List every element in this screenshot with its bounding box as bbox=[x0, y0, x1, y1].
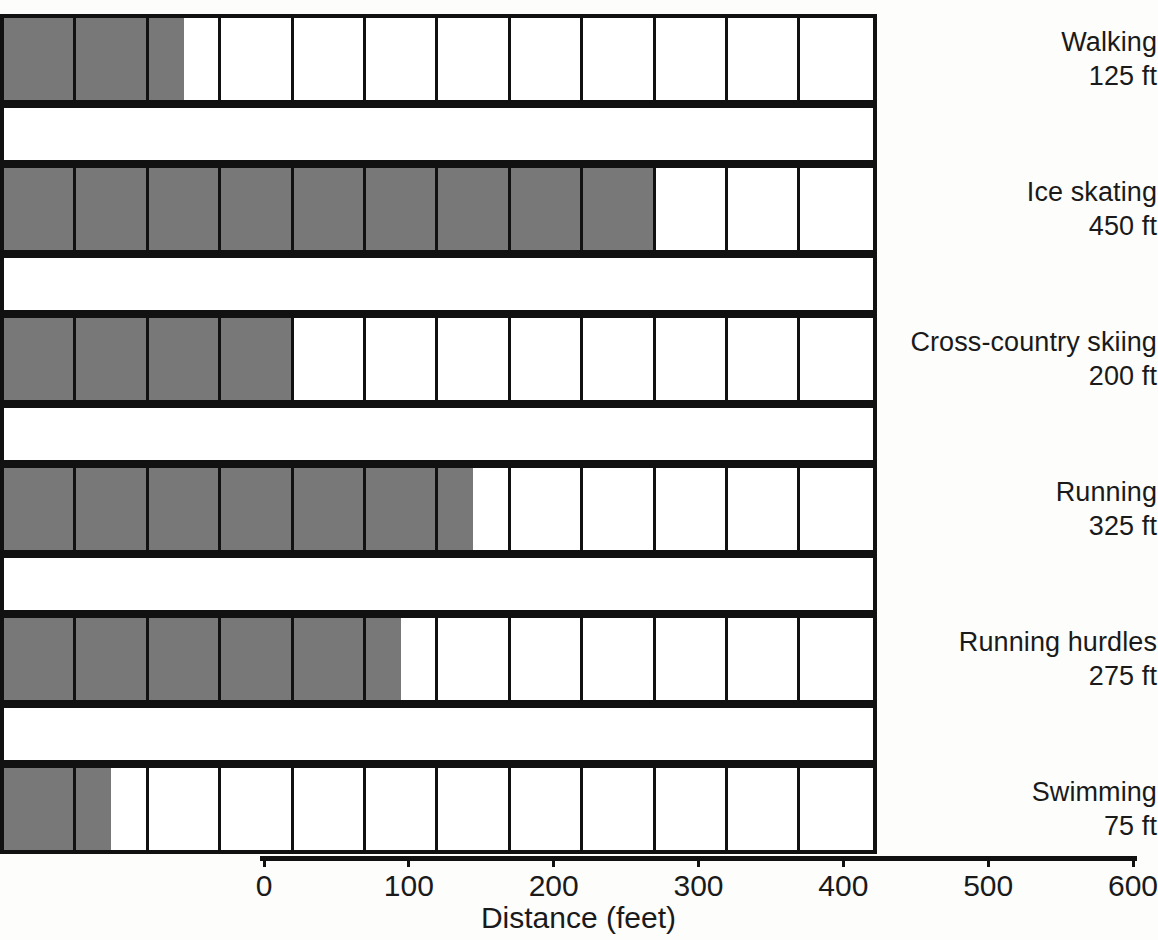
bar-cell bbox=[438, 468, 510, 550]
bar-fill bbox=[583, 168, 652, 250]
bar-row bbox=[0, 764, 877, 854]
bar-cell bbox=[583, 618, 655, 700]
bar-cell bbox=[149, 168, 221, 250]
bar-cell bbox=[4, 468, 76, 550]
bar-cell bbox=[149, 318, 221, 400]
bar-cell bbox=[728, 18, 800, 100]
bar-cell bbox=[438, 18, 510, 100]
bar-fill bbox=[149, 168, 218, 250]
bar-cell bbox=[221, 168, 293, 250]
bar-cell bbox=[728, 468, 800, 550]
bar-cell bbox=[656, 168, 728, 250]
spacer-row bbox=[0, 404, 877, 464]
bar-cell bbox=[294, 168, 366, 250]
bar-cell bbox=[800, 768, 872, 850]
bar-cell bbox=[221, 768, 293, 850]
bar-cell bbox=[656, 618, 728, 700]
bar-cell bbox=[76, 318, 148, 400]
bar-cell bbox=[800, 318, 872, 400]
category-label-6: Swimming75 ft bbox=[907, 775, 1157, 843]
bar-cell bbox=[800, 468, 872, 550]
bar-fill bbox=[221, 618, 290, 700]
bar-cell bbox=[76, 168, 148, 250]
bar-cell bbox=[366, 768, 438, 850]
x-axis-tick-label: 500 bbox=[963, 868, 1013, 904]
category-value: 125 ft bbox=[907, 59, 1157, 93]
category-name: Running bbox=[907, 475, 1157, 509]
bar-fill bbox=[149, 318, 218, 400]
category-name: Swimming bbox=[907, 775, 1157, 809]
x-axis-tick bbox=[842, 856, 845, 867]
category-name: Running hurdles bbox=[907, 625, 1157, 659]
bar-fill bbox=[149, 618, 218, 700]
bar-fill bbox=[76, 768, 111, 850]
bar-cell bbox=[221, 468, 293, 550]
bar-fill bbox=[294, 168, 363, 250]
x-axis-tick bbox=[1132, 856, 1135, 867]
category-name: Walking bbox=[907, 25, 1157, 59]
bar-fill bbox=[149, 18, 184, 100]
bar-cell bbox=[294, 618, 366, 700]
x-axis-tick-label: 100 bbox=[384, 868, 434, 904]
bar-cell bbox=[149, 768, 221, 850]
bar-cell bbox=[366, 618, 438, 700]
x-axis-tick-label: 400 bbox=[818, 868, 868, 904]
bar-fill bbox=[221, 468, 290, 550]
x-axis-tick-label: 600 bbox=[1108, 868, 1158, 904]
bar-cell bbox=[656, 468, 728, 550]
bar-cell bbox=[511, 18, 583, 100]
bar-fill bbox=[4, 468, 73, 550]
category-name: Cross-country skiing bbox=[907, 325, 1157, 359]
bar-fill bbox=[76, 468, 145, 550]
bar-fill bbox=[221, 318, 290, 400]
bar-cell bbox=[4, 318, 76, 400]
x-axis-tick-label: 200 bbox=[529, 868, 579, 904]
bar-cell bbox=[438, 318, 510, 400]
bar-cell bbox=[149, 468, 221, 550]
bar-cell bbox=[728, 768, 800, 850]
bar-fill bbox=[4, 318, 73, 400]
bar-fill bbox=[76, 168, 145, 250]
x-axis-tick bbox=[987, 856, 990, 867]
bar-cell bbox=[294, 318, 366, 400]
bar-cell bbox=[221, 618, 293, 700]
category-label-4: Running325 ft bbox=[907, 475, 1157, 543]
x-axis-tick-label: 300 bbox=[673, 868, 723, 904]
x-axis-tick-label: 0 bbox=[256, 868, 273, 904]
bar-cell bbox=[366, 318, 438, 400]
category-value: 75 ft bbox=[907, 809, 1157, 843]
bar-cell bbox=[583, 168, 655, 250]
x-axis-tick bbox=[552, 856, 555, 867]
bar-row bbox=[0, 164, 877, 254]
bar-cell bbox=[366, 468, 438, 550]
bar-cell bbox=[76, 18, 148, 100]
category-label-5: Running hurdles275 ft bbox=[907, 625, 1157, 693]
bar-cell bbox=[728, 618, 800, 700]
bar-cell bbox=[221, 18, 293, 100]
bar-cell bbox=[511, 168, 583, 250]
spacer-row bbox=[0, 554, 877, 614]
bar-cell bbox=[294, 468, 366, 550]
bar-row bbox=[0, 464, 877, 554]
bar-cell bbox=[511, 768, 583, 850]
bar-row bbox=[0, 14, 877, 104]
bar-fill bbox=[511, 168, 580, 250]
bar-cell bbox=[511, 618, 583, 700]
bar-fill bbox=[366, 618, 401, 700]
bar-cell bbox=[583, 468, 655, 550]
bar-fill bbox=[4, 618, 73, 700]
bar-cell bbox=[149, 18, 221, 100]
bar-fill bbox=[294, 618, 363, 700]
bar-cell bbox=[511, 318, 583, 400]
bar-row bbox=[0, 614, 877, 704]
spacer-row bbox=[0, 104, 877, 164]
bar-fill bbox=[366, 468, 435, 550]
bar-fill bbox=[76, 618, 145, 700]
bar-cell bbox=[4, 618, 76, 700]
category-label-1: Walking125 ft bbox=[907, 25, 1157, 93]
bar-cell bbox=[583, 318, 655, 400]
bar-cell bbox=[800, 18, 872, 100]
bar-fill bbox=[221, 168, 290, 250]
spacer-row bbox=[0, 704, 877, 764]
